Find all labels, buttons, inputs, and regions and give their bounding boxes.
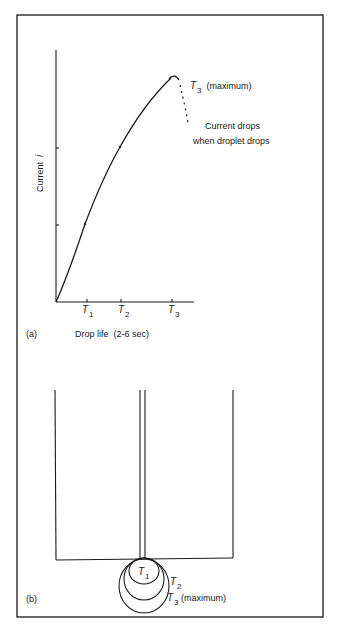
annotation-line-2: when droplet drops <box>193 136 270 146</box>
x-tick-label-t3: T3 <box>168 304 180 315</box>
tick-subscript: 2 <box>125 310 129 319</box>
peak-note: (maximum) <box>207 81 252 91</box>
drop-note: (maximum) <box>181 593 226 603</box>
x-tick-label-t2: T2 <box>118 304 130 315</box>
panel-a-axes <box>56 50 194 302</box>
drop-symbol: T <box>138 566 144 577</box>
drop-label-t2: T2 <box>170 576 182 587</box>
figure-canvas <box>0 0 338 632</box>
peak-symbol: T <box>190 80 196 91</box>
x-axis-range-note: (2-6 sec) <box>114 329 150 339</box>
panel-b-apparatus <box>55 390 233 613</box>
drop-subscript: 1 <box>145 572 149 581</box>
tick-symbol: T <box>118 304 124 315</box>
drop-label-t3: T3 (maximum) <box>167 592 226 603</box>
panel-a-label: (a) <box>26 329 37 339</box>
tick-symbol: T <box>82 304 88 315</box>
y-axis-label: Current i <box>34 155 45 192</box>
x-axis-label-text: Drop life <box>75 329 109 339</box>
figure-frame <box>17 15 323 617</box>
tick-subscript: 1 <box>89 310 93 319</box>
drop-subscript: 2 <box>177 582 181 591</box>
tick-subscript: 3 <box>175 310 179 319</box>
peak-subscript: 3 <box>197 86 201 95</box>
x-tick-label-t1: T1 <box>82 304 94 315</box>
peak-arc <box>169 76 179 80</box>
tick-symbol: T <box>168 304 174 315</box>
drop-subscript: 3 <box>174 598 178 607</box>
curve-marker-t2 <box>119 146 121 148</box>
drop-t2 <box>124 558 164 600</box>
beaker-left-wall <box>55 390 56 560</box>
drop-symbol: T <box>170 576 176 587</box>
curve-marker-t1 <box>84 223 86 225</box>
y-axis-symbol: i <box>34 155 45 157</box>
drop-label-t1: T1 <box>138 566 150 577</box>
x-axis-label: Drop life (2-6 sec) <box>75 329 149 339</box>
drop-symbol: T <box>167 592 173 603</box>
peak-label: T3 (maximum) <box>190 80 252 91</box>
current-curve <box>56 78 171 302</box>
y-axis-label-text: Current <box>35 162 45 192</box>
annotation-line-1: Current drops <box>205 121 260 131</box>
panel-b-label: (b) <box>26 594 37 604</box>
drop-dashed-line <box>180 85 188 123</box>
